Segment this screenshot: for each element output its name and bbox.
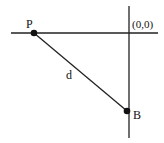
diagram-canvas: P (0,0) d B [0, 0, 164, 143]
point-p-label: P [26, 17, 33, 31]
geometry-diagram: P (0,0) d B [0, 0, 164, 143]
point-b [124, 108, 131, 115]
segment-d [34, 33, 127, 111]
segment-d-label: d [66, 68, 72, 82]
origin-label: (0,0) [132, 18, 153, 31]
point-b-label: B [133, 108, 141, 122]
